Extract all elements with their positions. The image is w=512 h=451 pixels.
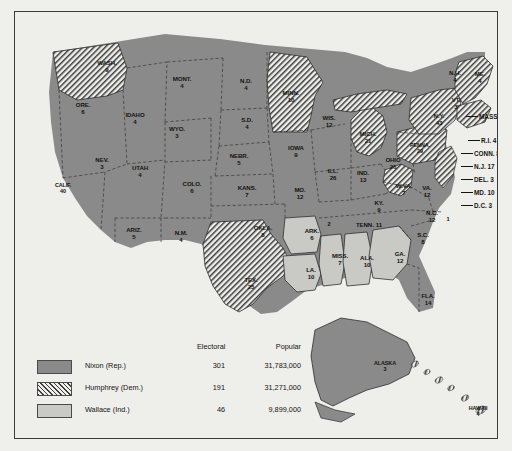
faithless-elector-marker: 2 <box>327 221 330 227</box>
callout-leader-line <box>461 192 473 193</box>
legend-swatch-nixon <box>37 360 72 374</box>
legend-electoral-humphrey: 191 <box>197 383 225 392</box>
legend-header: Electoral Popular <box>37 342 337 357</box>
legend-electoral-nixon: 301 <box>197 361 225 370</box>
legend-row-nixon: Nixon (Rep.) 301 31,783,000 <box>37 357 337 379</box>
legend-row-humphrey: Humphrey (Dem.) 191 31,271,000 <box>37 379 337 401</box>
legend: Electoral Popular Nixon (Rep.) 301 31,78… <box>37 342 337 423</box>
legend-popular-wallace: 9,899,000 <box>235 405 301 414</box>
legend-swatch-wallace <box>37 404 72 418</box>
callout-md: MD. 10 <box>474 189 495 196</box>
legend-candidate-wallace: Wallace (Ind.) <box>85 405 130 414</box>
callout-nj: N.J. 17 <box>474 163 495 170</box>
callout-leader-line <box>466 116 478 117</box>
legend-candidate-humphrey: Humphrey (Dem.) <box>85 383 143 392</box>
callout-ri: R.I. 4 <box>481 137 496 144</box>
callout-leader-line <box>461 166 473 167</box>
legend-row-wallace: Wallace (Ind.) 46 9,899,000 <box>37 401 337 423</box>
legend-electoral-wallace: 46 <box>197 405 225 414</box>
callout-leader-line <box>461 205 473 206</box>
legend-candidate-nixon: Nixon (Rep.) <box>85 361 126 370</box>
callout-dc: D.C. 3 <box>474 202 492 209</box>
callout-leader-line <box>468 140 480 141</box>
callout-mass: MASS. 14 <box>479 113 498 120</box>
callout-del: DEL. 3 <box>474 176 494 183</box>
legend-swatch-humphrey <box>37 382 72 396</box>
legend-popular-humphrey: 31,271,000 <box>235 383 301 392</box>
callout-leader-line <box>461 179 473 180</box>
legend-header-popular: Popular <box>235 342 301 351</box>
legend-header-electoral: Electoral <box>197 342 225 351</box>
map-frame: WASH.9ORE.6CALIF.40NEV.3IDAHO4MONT.4WYO.… <box>14 11 498 439</box>
legend-popular-nixon: 31,783,000 <box>235 361 301 370</box>
callout-leader-line <box>461 153 473 154</box>
callout-conn: CONN. 8 <box>474 150 498 157</box>
faithless-elector-marker: 1 <box>446 216 449 222</box>
